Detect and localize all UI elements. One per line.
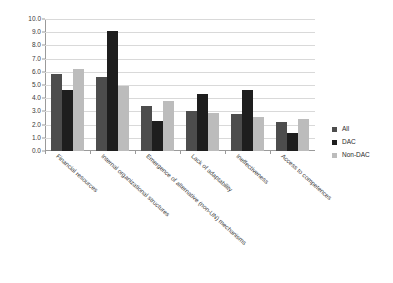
bar-group — [225, 19, 270, 151]
bar-non-dac — [298, 119, 309, 151]
bar-dac — [197, 94, 208, 151]
bar-dac — [62, 90, 73, 151]
bar-dac — [242, 90, 253, 151]
x-axis-tick-label: Financial resources — [54, 153, 98, 194]
y-axis-tick-label: 3.0 — [32, 108, 41, 115]
y-axis-tick-label: 10.0 — [28, 16, 41, 23]
legend-item-all[interactable]: All — [332, 123, 370, 136]
bar-group — [90, 19, 135, 151]
bar-groups — [45, 19, 315, 151]
x-axis-tick-mark — [135, 151, 136, 154]
y-axis-tick-label: 1.0 — [32, 135, 41, 142]
x-axis-tick-mark — [45, 151, 46, 154]
y-axis-tick-label: 6.0 — [32, 69, 41, 76]
x-axis-tick-label: Lack of adaptability — [189, 153, 233, 194]
x-axis-tick-mark — [225, 151, 226, 154]
y-axis-tick-label: 5.0 — [32, 82, 41, 89]
legend-item-non-dac[interactable]: Non-DAC — [332, 149, 370, 162]
legend-swatch-icon — [332, 127, 337, 132]
plot-area: 0.01.02.03.04.05.06.07.08.09.010.0 — [45, 19, 315, 151]
legend-swatch-icon — [332, 140, 337, 145]
legend-item-dac[interactable]: DAC — [332, 136, 370, 149]
y-axis-tick-label: 4.0 — [32, 95, 41, 102]
bar-group — [45, 19, 90, 151]
legend-swatch-icon — [332, 153, 337, 158]
bar-group — [135, 19, 180, 151]
bar-chart: 0.01.02.03.04.05.06.07.08.09.010.0 Finan… — [0, 0, 393, 283]
chart-legend: AllDACNon-DAC — [332, 123, 370, 162]
bar-dac — [107, 31, 118, 151]
bar-all — [276, 122, 287, 151]
y-axis-tick-label: 8.0 — [32, 42, 41, 49]
bar-group — [270, 19, 315, 151]
legend-item-label: All — [342, 126, 349, 133]
legend-item-label: DAC — [342, 139, 356, 146]
x-axis-tick-label: Emergence of alternative (non-UN) mechan… — [144, 153, 247, 247]
bar-non-dac — [118, 86, 129, 151]
bar-group — [180, 19, 225, 151]
y-axis-tick-label: 9.0 — [32, 29, 41, 36]
bar-dac — [152, 121, 163, 151]
bar-all — [231, 114, 242, 151]
bar-non-dac — [208, 113, 219, 151]
y-axis-tick-label: 0.0 — [32, 148, 41, 155]
x-axis-tick-mark — [270, 151, 271, 154]
bar-non-dac — [253, 117, 264, 151]
y-axis-tick-label: 7.0 — [32, 55, 41, 62]
bar-all — [51, 74, 62, 151]
bar-all — [186, 111, 197, 151]
bar-non-dac — [73, 69, 84, 151]
bar-all — [141, 106, 152, 151]
bar-non-dac — [163, 101, 174, 151]
x-axis-tick-label: Ineffectiveness — [234, 153, 269, 186]
x-axis-tick-mark — [90, 151, 91, 154]
y-axis-tick-label: 2.0 — [32, 121, 41, 128]
bar-dac — [287, 133, 298, 151]
legend-item-label: Non-DAC — [342, 152, 370, 159]
x-axis-tick-label: Access to competences — [279, 153, 332, 202]
x-axis-tick-mark — [180, 151, 181, 154]
bar-all — [96, 77, 107, 151]
